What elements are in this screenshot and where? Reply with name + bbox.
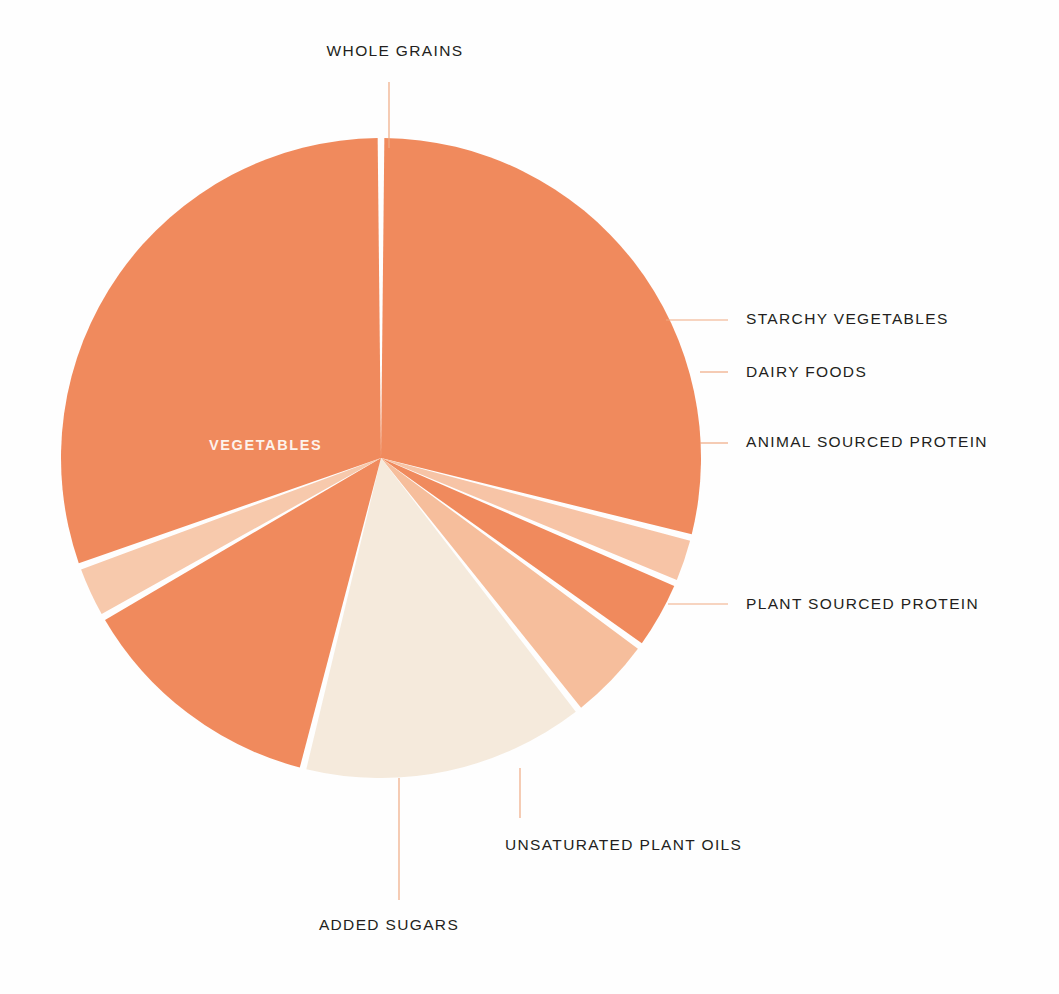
slice-label-dairy-foods: DAIRY FOODS	[746, 364, 867, 380]
slice-label-whole-grains: WHOLE GRAINS	[327, 43, 464, 59]
pie-chart-figure: WHOLE GRAINS STARCHY VEGETABLES DAIRY FO…	[0, 0, 1059, 994]
slice-label-unsaturated-plant-oils: UNSATURATED PLANT OILS	[505, 837, 742, 853]
slice-label-starchy-vegetables: STARCHY VEGETABLES	[746, 311, 949, 327]
slice-label-animal-sourced-protein: ANIMAL SOURCED PROTEIN	[746, 434, 988, 450]
slice-label-plant-sourced-protein: PLANT SOURCED PROTEIN	[746, 596, 979, 612]
slice-label-vegetables: VEGETABLES	[209, 438, 322, 453]
slice-label-added-sugars: ADDED SUGARS	[319, 917, 459, 933]
pie-slices-group	[61, 138, 701, 778]
